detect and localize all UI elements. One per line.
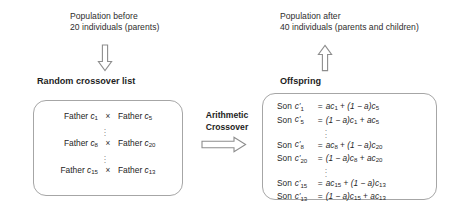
- formula-lhs-sub-4: 15: [300, 182, 307, 189]
- formula-lhs-2: c′8: [295, 139, 315, 150]
- pair-right-0: Father c5: [118, 111, 173, 121]
- formula-op-2: +: [340, 140, 345, 150]
- vertical-ellipsis-0: ...: [34, 126, 182, 138]
- arithmetic-crossover-label: Arithmetic Crossover: [193, 110, 261, 133]
- formula-t2-sub-3: 20: [376, 156, 383, 163]
- formula-t2-sub-4: 13: [379, 182, 386, 189]
- formula-rhs-4: ac15 + (1 − a)c13: [326, 178, 386, 188]
- formula-lhs-sub-2: 8: [300, 143, 303, 150]
- pair-left-2: Father c15: [43, 165, 98, 175]
- population-before-line-2: 20 individuals (parents): [70, 22, 159, 33]
- pair-left-label-2: Father: [60, 165, 84, 175]
- formula-lhs-sub-3: 20: [300, 156, 307, 163]
- population-after-caption: Population after 40 individuals (parents…: [280, 11, 419, 34]
- formula-rhs-3: (1 − a)c8 + ac20: [326, 153, 383, 163]
- formula-t2-sub-0: 5: [376, 105, 379, 112]
- formula-t1-coef-1: (1 − a): [326, 115, 350, 125]
- vertical-ellipsis-2: ...: [277, 127, 386, 139]
- crossover-label-line-2: Crossover: [193, 122, 261, 134]
- formula-t1-sub-0: 1: [334, 105, 337, 112]
- formula-t1-sub-5: 15: [354, 195, 361, 202]
- formula-t1-sub-4: 15: [334, 182, 341, 189]
- formula-rhs-0: ac1 + (1 − a)c5: [326, 101, 379, 111]
- formula-lhs-4: c′15: [295, 178, 315, 189]
- offspring-box: Son c′1 = ac1 + (1 − a)c5 Son c′5 = (1 −…: [262, 93, 437, 200]
- pair-operator-1: ×: [98, 139, 118, 148]
- formula-lhs-5: c′13: [295, 191, 315, 202]
- formula-t2-coef-2: (1 − a): [347, 140, 371, 150]
- offspring-title: Offspring: [280, 76, 321, 86]
- list-item: Son c′20 = (1 − a)c8 + ac20: [277, 153, 386, 166]
- formula-t1-coef-5: (1 − a): [326, 191, 350, 201]
- pair-left-label-0: Father: [64, 111, 88, 121]
- arrow-up-outline-icon: [317, 44, 333, 72]
- arrow-right-outline-icon: [201, 136, 247, 153]
- random-crossover-list-box: Father c1 × Father c5 ... Father c8 × Fa…: [33, 100, 183, 196]
- pair-right-sub-1: 20: [149, 141, 156, 148]
- crossover-pair-list: Father c1 × Father c5 ... Father c8 × Fa…: [34, 111, 182, 180]
- arithmetic-crossover-figure: Population before 20 individuals (parent…: [0, 0, 466, 214]
- formula-rhs-5: (1 − a)c15 + ac13: [326, 191, 386, 201]
- list-item: Son c′8 = ac8 + (1 − a)c20: [277, 139, 386, 152]
- formula-eq-0: =: [315, 101, 326, 111]
- pair-right-sub-0: 5: [149, 114, 152, 121]
- formula-t2-sub-2: 20: [376, 143, 383, 150]
- pair-left-label-1: Father: [64, 138, 88, 148]
- pair-right-1: Father c20: [118, 138, 173, 148]
- formula-t1-coef-3: (1 − a): [326, 153, 350, 163]
- pair-right-sub-2: 13: [149, 168, 156, 175]
- formula-t2-sub-5: 13: [379, 195, 386, 202]
- formula-rhs-1: (1 − a)c1 + ac5: [326, 115, 379, 125]
- formula-eq-4: =: [315, 178, 326, 188]
- arrow-down-outline-icon: [97, 44, 113, 72]
- formula-t1-sub-2: 8: [334, 143, 337, 150]
- formula-t2-coef-4: (1 − a): [351, 178, 375, 188]
- random-crossover-list-title: Random crossover list: [37, 76, 135, 86]
- formula-op-5: +: [363, 191, 368, 201]
- formula-lhs-sub-0: 1: [300, 105, 303, 112]
- formula-lhs-sub-5: 13: [300, 195, 307, 202]
- pair-left-sub-2: 15: [91, 168, 98, 175]
- formula-op-0: +: [340, 101, 345, 111]
- formula-t1-sub-1: 1: [354, 118, 357, 125]
- population-before-line-1: Population before: [70, 11, 159, 22]
- population-after-line-2: 40 individuals (parents and children): [280, 22, 419, 33]
- formula-t2-sub-1: 5: [376, 118, 379, 125]
- formula-label-3: Son: [277, 153, 295, 163]
- formula-lhs-1: c′5: [295, 114, 315, 125]
- list-item: Father c8 × Father c20: [34, 138, 182, 153]
- formula-lhs-3: c′20: [295, 153, 315, 164]
- offspring-formula-list: Son c′1 = ac1 + (1 − a)c5 Son c′5 = (1 −…: [277, 101, 386, 204]
- population-before-caption: Population before 20 individuals (parent…: [70, 11, 159, 34]
- pair-right-label-2: Father: [118, 165, 142, 175]
- formula-op-1: +: [360, 115, 365, 125]
- formula-eq-2: =: [315, 140, 326, 150]
- vertical-ellipsis-1: ...: [34, 153, 182, 165]
- formula-t1-sub-3: 8: [354, 156, 357, 163]
- pair-right-label-1: Father: [118, 138, 142, 148]
- pair-operator-0: ×: [98, 112, 118, 121]
- formula-t2-coef-0: (1 − a): [347, 101, 371, 111]
- list-item: Father c15 × Father c13: [34, 165, 182, 180]
- formula-label-0: Son: [277, 101, 295, 111]
- formula-op-4: +: [344, 178, 349, 188]
- formula-op-3: +: [360, 153, 365, 163]
- list-item: Son c′15 = ac15 + (1 − a)c13: [277, 178, 386, 191]
- pair-right-2: Father c13: [118, 165, 173, 175]
- list-item: Father c1 × Father c5: [34, 111, 182, 126]
- formula-label-5: Son: [277, 191, 295, 201]
- list-item: Son c′5 = (1 − a)c1 + ac5: [277, 114, 386, 127]
- pair-left-1: Father c8: [43, 138, 98, 148]
- pair-operator-2: ×: [98, 166, 118, 175]
- formula-rhs-2: ac8 + (1 − a)c20: [326, 140, 383, 150]
- formula-lhs-0: c′1: [295, 101, 315, 112]
- pair-left-0: Father c1: [43, 111, 98, 121]
- population-after-line-1: Population after: [280, 11, 419, 22]
- formula-lhs-sub-1: 5: [300, 118, 303, 125]
- formula-label-4: Son: [277, 178, 295, 188]
- list-item: Son c′13 = (1 − a)c15 + ac13: [277, 191, 386, 204]
- formula-label-1: Son: [277, 115, 295, 125]
- vertical-ellipsis-3: ...: [277, 166, 386, 178]
- pair-right-label-0: Father: [118, 111, 142, 121]
- formula-eq-1: =: [315, 115, 326, 125]
